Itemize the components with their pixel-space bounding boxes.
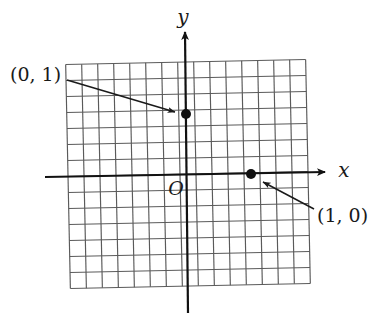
point-label-1-0: (1, 0) xyxy=(317,204,368,226)
point-label-0-1: (0, 1) xyxy=(10,63,61,85)
x-axis-label: x xyxy=(338,158,349,182)
figure-background xyxy=(0,0,382,321)
data-point-0-1 xyxy=(181,109,191,119)
data-point-1-0 xyxy=(246,169,256,179)
y-axis-label: y xyxy=(176,5,189,29)
origin-label: O xyxy=(168,177,184,199)
coordinate-plane-svg: y x O (0, 1) (1, 0) xyxy=(0,0,382,321)
